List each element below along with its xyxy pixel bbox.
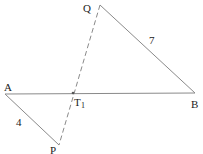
label-4: 4: [16, 116, 22, 128]
label-T-subscript: 1: [81, 101, 85, 110]
label-B: B: [191, 98, 198, 110]
point-T1-marker: [72, 92, 75, 95]
segment-AP: [5, 94, 59, 145]
segment-QP-dashed: [59, 5, 100, 145]
segment-QB: [100, 5, 195, 93]
label-T: T: [74, 96, 81, 108]
label-7: 7: [149, 34, 155, 46]
label-P: P: [50, 144, 56, 154]
label-A: A: [4, 81, 12, 93]
geometry-diagram: Q 7 A T 1 B 4 P: [0, 0, 203, 154]
segment-AB: [5, 93, 195, 94]
label-Q: Q: [83, 2, 91, 14]
